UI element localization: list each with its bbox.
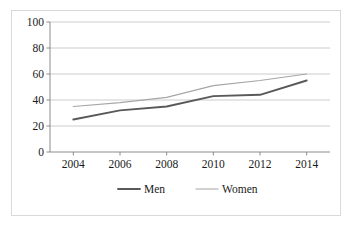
y-tick-label-20: 20 [33, 120, 45, 132]
x-tick-label-2006: 2006 [109, 158, 132, 170]
legend-entry-men: Men [118, 183, 165, 195]
y-tick-label-40: 40 [33, 94, 45, 106]
x-tick-label-2012: 2012 [249, 158, 272, 170]
legend-label-women: Women [222, 183, 258, 195]
y-tick-label-100: 100 [27, 16, 45, 28]
x-tick-label-2008: 2008 [155, 158, 178, 170]
line-chart-plot: 020406080100200420062008201020122014MenW… [12, 11, 340, 215]
x-tick-label-2014: 2014 [295, 158, 318, 170]
chart-figure: 020406080100200420062008201020122014MenW… [11, 10, 341, 216]
y-tick-label-60: 60 [33, 68, 45, 80]
legend-label-men: Men [144, 183, 165, 195]
legend-entry-women: Women [196, 183, 258, 195]
x-tick-label-2004: 2004 [62, 158, 85, 170]
y-tick-label-0: 0 [38, 146, 44, 158]
y-tick-label-80: 80 [33, 42, 45, 54]
x-tick-label-2010: 2010 [202, 158, 225, 170]
